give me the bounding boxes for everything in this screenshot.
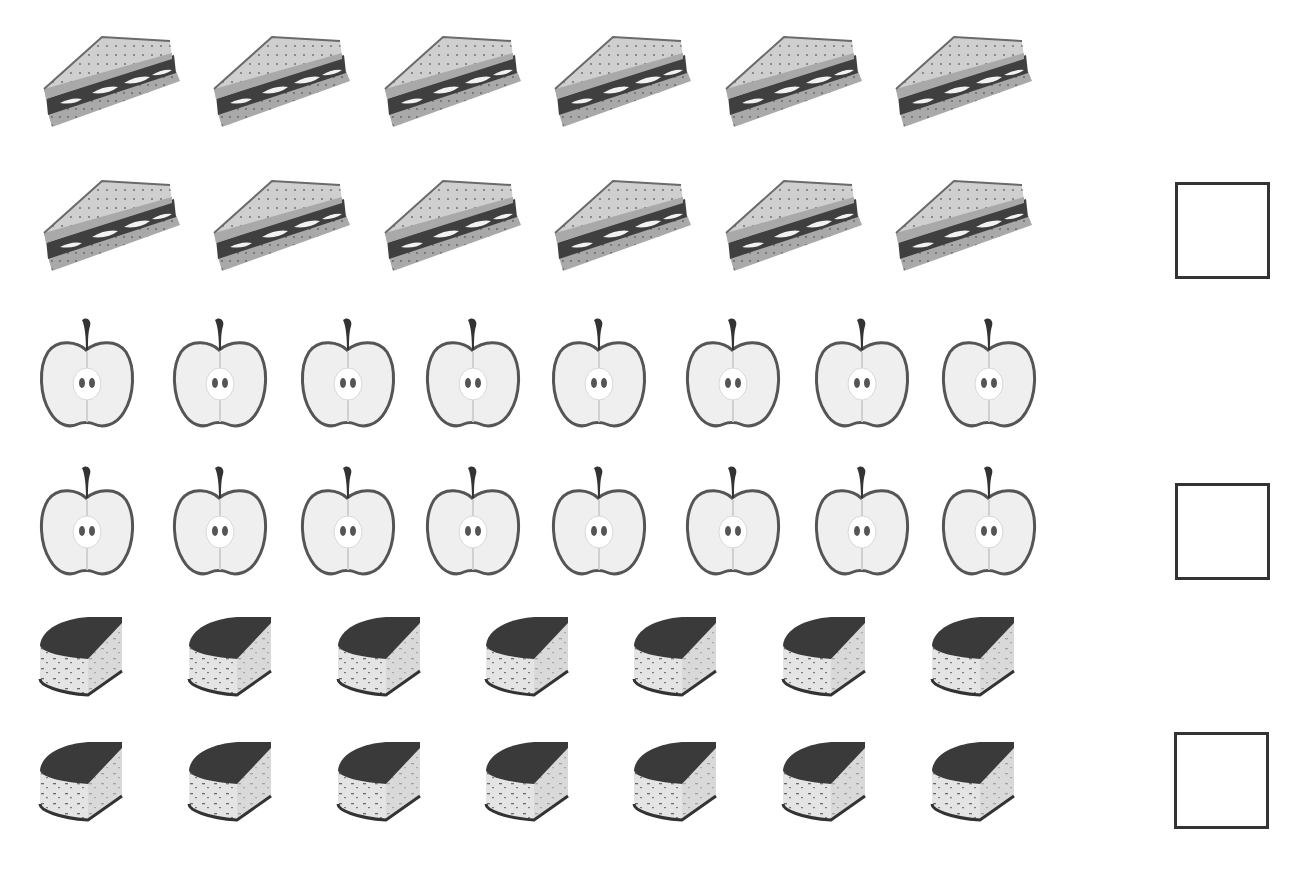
cake-slice-icon xyxy=(781,615,867,697)
cake-slice-icon xyxy=(187,615,273,697)
sandwich-icon xyxy=(551,33,691,133)
cake-slice-icon xyxy=(336,615,422,697)
cake-slice-icon xyxy=(930,615,1016,697)
apple-icon xyxy=(940,316,1037,429)
apple-icon xyxy=(813,316,910,429)
sandwich-icon xyxy=(722,177,862,277)
sandwich-icon xyxy=(210,33,350,133)
cake-slice-icon xyxy=(484,740,570,822)
apple-row-1 xyxy=(0,316,1100,429)
cake-slice-icon xyxy=(38,615,124,697)
apple-icon xyxy=(550,316,647,429)
apple-icon xyxy=(38,316,135,429)
apple-icon xyxy=(171,464,268,577)
sandwich-icon xyxy=(210,177,350,277)
apple-answer-box[interactable] xyxy=(1175,483,1270,580)
apple-icon xyxy=(171,316,268,429)
apple-icon xyxy=(940,464,1037,577)
apple-icon xyxy=(299,464,396,577)
cake-slice-icon xyxy=(632,740,718,822)
apple-icon xyxy=(38,464,135,577)
sandwich-icon xyxy=(892,33,1032,133)
cake-slice-icon xyxy=(484,615,570,697)
sandwich-icon xyxy=(381,33,521,133)
sandwich-icon xyxy=(722,33,862,133)
apple-icon xyxy=(424,464,521,577)
cake-slice-icon xyxy=(336,740,422,822)
sandwich-icon xyxy=(551,177,691,277)
sandwich-icon xyxy=(40,33,180,133)
cake-slice-icon xyxy=(632,615,718,697)
apple-icon xyxy=(684,464,781,577)
sandwich-row-1 xyxy=(0,33,1100,133)
sandwich-icon xyxy=(892,177,1032,277)
sandwich-icon xyxy=(40,177,180,277)
sandwich-icon xyxy=(381,177,521,277)
cake-slice-icon xyxy=(187,740,273,822)
apple-icon xyxy=(299,316,396,429)
sandwich-row-2 xyxy=(0,177,1100,277)
cake-slice-icon xyxy=(930,740,1016,822)
apple-icon xyxy=(424,316,521,429)
apple-icon xyxy=(813,464,910,577)
apple-icon xyxy=(684,316,781,429)
cake-answer-box[interactable] xyxy=(1174,732,1269,829)
apple-icon xyxy=(550,464,647,577)
apple-row-2 xyxy=(0,464,1100,577)
cake-slice-icon xyxy=(781,740,867,822)
cake-row-1 xyxy=(0,615,1100,697)
cake-row-2 xyxy=(0,740,1100,822)
cake-slice-icon xyxy=(38,740,124,822)
sandwich-answer-box[interactable] xyxy=(1175,182,1270,279)
